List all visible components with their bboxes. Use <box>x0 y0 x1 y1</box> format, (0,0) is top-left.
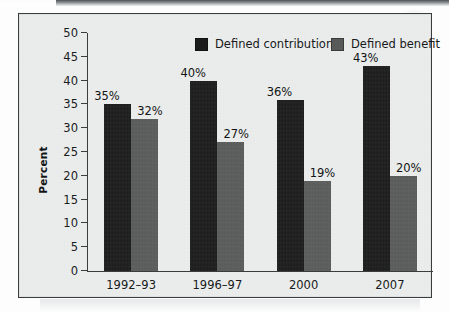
y-axis-tick-label: 30 <box>63 122 78 134</box>
bar-defined-contribution <box>190 81 217 271</box>
bar-defined-contribution <box>363 66 390 271</box>
y-axis-tick: 50 <box>41 27 87 39</box>
y-axis-tick-label: 5 <box>71 241 78 253</box>
bar-value-label-defined-benefit: 19% <box>310 167 336 179</box>
bar-value-label-defined-contribution: 40% <box>180 67 206 79</box>
y-axis-tick: 15 <box>41 194 87 206</box>
bar-value-label-defined-contribution: 43% <box>353 52 379 64</box>
y-axis-tick-label: 45 <box>63 51 78 63</box>
bar-group: 43%20% <box>347 33 433 271</box>
bar-group: 35%32% <box>88 33 174 271</box>
y-axis-tick: 10 <box>41 217 87 229</box>
y-axis-tick: 25 <box>41 146 87 158</box>
y-axis-tick: 0 <box>41 265 87 277</box>
x-axis-label: 1992–93 <box>88 276 174 294</box>
bar-value-label-defined-contribution: 35% <box>94 90 120 102</box>
scan-smudge-bottom <box>40 299 420 312</box>
bar-texture <box>363 66 390 271</box>
y-axis-tick-label: 0 <box>71 265 78 277</box>
x-axis-label: 2007 <box>347 276 433 294</box>
bar-group: 40%27% <box>174 33 260 271</box>
bar-defined-benefit <box>390 176 417 271</box>
y-axis-tick: 45 <box>41 51 87 63</box>
y-axis-tick: 40 <box>41 75 87 87</box>
y-axis-tick: 20 <box>41 170 87 182</box>
x-axis-labels: 1992–931996–9720002007 <box>88 276 433 296</box>
bar-texture <box>190 81 217 271</box>
bar-defined-contribution <box>277 100 304 271</box>
x-axis-label: 1996–97 <box>174 276 260 294</box>
y-axis-tick-label: 15 <box>63 194 78 206</box>
chart-frame: Defined contribution Defined benefit Per… <box>18 13 432 298</box>
bar-texture <box>131 119 158 271</box>
bar-texture <box>304 181 331 271</box>
x-axis-line <box>87 271 433 272</box>
bar-value-label-defined-benefit: 32% <box>137 105 163 117</box>
y-axis-tick-label: 20 <box>63 170 78 182</box>
bar-texture <box>277 100 304 271</box>
bar-texture <box>390 176 417 271</box>
y-axis-tick-label: 25 <box>63 146 78 158</box>
bar-group: 36%19% <box>261 33 347 271</box>
y-axis-tick-label: 35 <box>63 98 78 110</box>
bar-defined-benefit <box>304 181 331 271</box>
bar-defined-benefit <box>131 119 158 271</box>
bar-value-label-defined-contribution: 36% <box>267 86 293 98</box>
bar-defined-contribution <box>104 104 131 271</box>
bar-texture <box>217 142 244 271</box>
y-axis-tick: 30 <box>41 122 87 134</box>
bar-defined-benefit <box>217 142 244 271</box>
bar-texture <box>104 104 131 271</box>
y-axis-ticks: 50454035302520151050 <box>41 33 87 271</box>
y-axis-tick: 5 <box>41 241 87 253</box>
y-axis-tick: 35 <box>41 98 87 110</box>
x-axis-label: 2000 <box>261 276 347 294</box>
y-axis-tick-label: 50 <box>63 27 78 39</box>
plot-area: 35%32%40%27%36%19%43%20% <box>88 33 433 271</box>
y-axis-tick-label: 10 <box>63 217 78 229</box>
bar-value-label-defined-benefit: 27% <box>223 128 249 140</box>
bar-value-label-defined-benefit: 20% <box>396 162 422 174</box>
y-axis-tick-label: 40 <box>63 75 78 87</box>
